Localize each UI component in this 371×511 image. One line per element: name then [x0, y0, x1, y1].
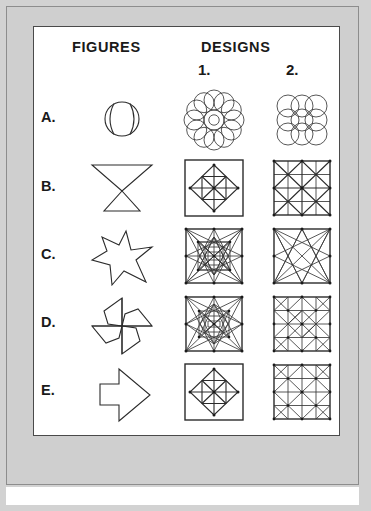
figures-column-header: FIGURES: [72, 39, 141, 55]
figure-cell-d[interactable]: [76, 290, 168, 358]
design-cell-a2[interactable]: [262, 85, 342, 153]
row-label-e: E.: [41, 382, 55, 398]
design-cell-b1[interactable]: [174, 154, 254, 222]
figure-cell-a[interactable]: [76, 85, 168, 153]
design-cell-e2[interactable]: [262, 358, 342, 426]
design-cell-e1[interactable]: [174, 358, 254, 426]
designs-column-header: DESIGNS: [201, 39, 270, 55]
design-cell-c1[interactable]: [174, 222, 254, 290]
design-cell-d2[interactable]: [262, 290, 342, 358]
ball-two-arcs-icon: [92, 90, 152, 148]
pinwheel-four-blades-icon: [86, 295, 158, 357]
worksheet-page: FIGURES DESIGNS 1. 2. A.: [0, 0, 371, 511]
circle-rosette-radial-icon: [178, 88, 250, 152]
row-label-b: B.: [41, 178, 56, 194]
bowtie-two-triangles-icon: [84, 159, 160, 217]
four-by-four-grid-diagonals-variant-icon: [269, 361, 335, 423]
header-row: FIGURES DESIGNS 1. 2.: [34, 27, 339, 85]
figure-cell-b[interactable]: [76, 154, 168, 222]
worksheet-row: A.: [34, 85, 339, 153]
figure-cell-c[interactable]: [76, 222, 168, 290]
design-cell-a1[interactable]: [174, 85, 254, 153]
design-cell-b2[interactable]: [262, 154, 342, 222]
row-label-a: A.: [41, 109, 56, 125]
design-column-2-number: 2.: [286, 61, 299, 78]
right-arrow-outline-icon: [86, 363, 158, 425]
design-cell-d1[interactable]: [174, 290, 254, 358]
worksheet-row: B.: [34, 154, 339, 222]
four-point-star-cross-icon: [86, 227, 158, 289]
row-label-d: D.: [41, 314, 56, 330]
figure-cell-e[interactable]: [76, 358, 168, 426]
dense-nested-star-burst-variant-icon: [181, 293, 247, 355]
design-column-1-number: 1.: [198, 61, 211, 78]
circle-grid-square-icon: [266, 88, 338, 152]
worksheet-row: C.: [34, 222, 339, 290]
design-cell-c2[interactable]: [262, 222, 342, 290]
square-inscribed-diamond-cross-small-icon: [181, 361, 247, 423]
four-by-four-grid-diagonals-icon: [269, 293, 335, 355]
row-label-c: C.: [41, 246, 56, 262]
square-inscribed-diamond-cross-icon: [181, 157, 247, 219]
scan-footer-strip: [6, 487, 359, 505]
eight-point-star-open-center-icon: [269, 225, 335, 287]
worksheet-row: D.: [34, 290, 339, 358]
dense-nested-star-burst-icon: [181, 225, 247, 287]
exercise-plate: FIGURES DESIGNS 1. 2. A.: [33, 26, 340, 436]
worksheet-row: E.: [34, 358, 339, 426]
square-quad-grid-full-diagonals-icon: [269, 157, 335, 219]
